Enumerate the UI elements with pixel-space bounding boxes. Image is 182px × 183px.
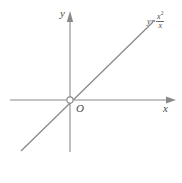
- numerator-exponent: 2: [161, 10, 164, 16]
- y-axis-arrowhead: [67, 11, 73, 22]
- equation-lhs: y: [147, 18, 151, 26]
- function-line: [21, 22, 153, 151]
- fraction-numerator: x2: [156, 13, 164, 21]
- math-graph-figure: y x O y = x2 x: [0, 0, 182, 183]
- equation-fraction: x2 x: [156, 13, 164, 30]
- function-equation-label: y = x2 x: [147, 13, 164, 30]
- open-circle-marker: [67, 97, 73, 103]
- equation-equals-sign: =: [151, 18, 156, 26]
- y-axis-label: y: [60, 8, 65, 19]
- origin-label: O: [76, 103, 84, 114]
- fraction-denominator: x: [157, 22, 163, 30]
- x-axis-label: x: [163, 103, 168, 114]
